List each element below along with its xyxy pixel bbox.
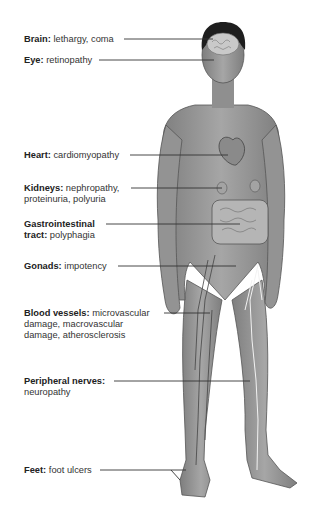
label-gonads: Gonads: impotency — [24, 261, 107, 272]
intestines — [212, 200, 268, 244]
left-leg — [232, 280, 297, 488]
label-blood-vessels: Blood vessels: microvasculardamage, macr… — [24, 308, 150, 341]
label-feet: Feet: foot ulcers — [24, 465, 92, 476]
label-gastrointestinal: Gastrointestinaltract: polyphagia — [24, 219, 95, 241]
label-brain: Brain: lethargy, coma — [24, 34, 114, 45]
human-body-figure — [0, 0, 321, 513]
label-eye: Eye: retinopathy — [24, 55, 92, 66]
brain — [207, 33, 239, 55]
label-kidneys: Kidneys: nephropathy,proteinuria, polyur… — [24, 183, 119, 205]
kidney-left — [250, 180, 260, 192]
label-heart: Heart: cardiomyopathy — [24, 150, 119, 161]
label-peripheral-nerves: Peripheral nerves:neuropathy — [24, 376, 105, 398]
